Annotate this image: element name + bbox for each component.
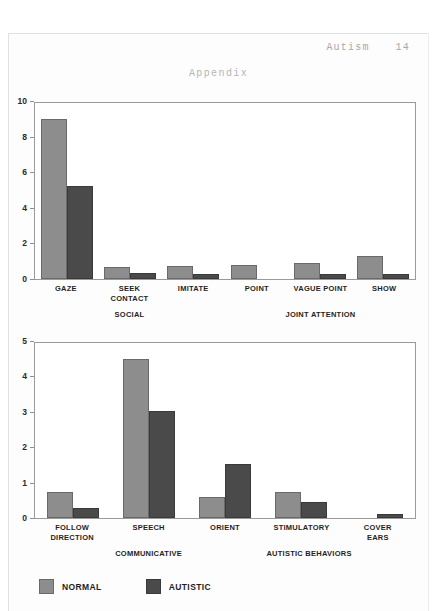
- y-axis-tick-label: 3: [22, 407, 27, 418]
- y-axis: 012345: [9, 342, 34, 519]
- y-axis-tick-label: 0: [22, 274, 27, 285]
- x-axis-group-label: COMMUNICATIVE: [115, 549, 182, 558]
- bar-group: [162, 103, 225, 279]
- y-axis-tick-label: 2: [22, 238, 27, 249]
- x-axis-category-label: GAZE: [34, 284, 98, 304]
- legend-swatch-normal: [39, 579, 54, 594]
- bar-autistic: [67, 186, 93, 279]
- y-axis-tick-mark: [30, 412, 34, 413]
- y-axis-tick-mark: [30, 279, 34, 280]
- bar-group: [35, 103, 98, 279]
- x-axis-group-label: SOCIAL: [115, 310, 145, 319]
- bar-normal: [41, 119, 67, 279]
- x-axis-category-labels: FOLLOWDIRECTIONSPEECHORIENTSTIMULATORYCO…: [34, 523, 416, 543]
- x-axis-category-label: SHOW: [352, 284, 416, 304]
- y-axis-tick-label: 10: [18, 96, 27, 107]
- y-axis-tick-mark: [30, 376, 34, 377]
- x-axis-category-label: SEEKCONTACT: [98, 284, 162, 304]
- y-axis-tick-mark: [30, 341, 34, 342]
- plot-frame: [34, 342, 416, 519]
- legend-label-normal: NORMAL: [62, 582, 102, 592]
- chart-communicative-autistic-behaviors: 012345 FOLLOWDIRECTIONSPEECHORIENTSTIMUL…: [9, 336, 430, 564]
- y-axis-tick-mark: [30, 518, 34, 519]
- x-axis-category-labels: GAZESEEKCONTACTIMITATEPOINTVAGUE POINTSH…: [34, 284, 416, 304]
- y-axis-tick-label: 1: [22, 478, 27, 489]
- y-axis-tick-label: 2: [22, 442, 27, 453]
- y-axis-tick-mark: [30, 172, 34, 173]
- bar-autistic: [73, 508, 99, 519]
- bar-group: [187, 343, 263, 518]
- x-axis-category-label: ORIENT: [187, 523, 263, 543]
- appendix-heading: Appendix: [9, 68, 428, 79]
- y-axis-tick-label: 4: [22, 371, 27, 382]
- page-number: 14: [396, 42, 410, 53]
- legend-item-autistic: AUTISTIC: [146, 579, 211, 594]
- y-axis-tick-label: 4: [22, 203, 27, 214]
- y-axis-tick-mark: [30, 208, 34, 209]
- legend-label-autistic: AUTISTIC: [169, 582, 211, 592]
- x-axis-group-label: JOINT ATTENTION: [286, 310, 356, 319]
- bar-autistic: [320, 274, 346, 279]
- y-axis-tick-mark: [30, 101, 34, 102]
- bar-normal: [167, 266, 193, 279]
- x-axis-category-label: STIMULATORY: [263, 523, 339, 543]
- chart-legend: NORMAL AUTISTIC: [39, 579, 211, 594]
- bar-groups: [35, 103, 415, 279]
- y-axis-tick-label: 0: [22, 513, 27, 524]
- document-page: Autism14 Appendix 0246810 GAZESEEKCONTAC…: [8, 33, 429, 611]
- x-axis-category-label: VAGUE POINT: [289, 284, 353, 304]
- bar-normal: [231, 265, 257, 279]
- bar-autistic: [149, 411, 175, 518]
- bar-normal: [199, 497, 225, 518]
- y-axis-tick-mark: [30, 137, 34, 138]
- plot-area-wrapper: 0246810: [34, 102, 416, 280]
- bar-group: [35, 343, 111, 518]
- x-axis-group-label: AUTISTIC BEHAVIORS: [266, 549, 351, 558]
- x-axis-category-label: FOLLOWDIRECTION: [34, 523, 110, 543]
- bar-group: [225, 103, 288, 279]
- chart-social-joint-attention: 0246810 GAZESEEKCONTACTIMITATEPOINTVAGUE…: [9, 96, 430, 321]
- y-axis-tick-label: 5: [22, 336, 27, 347]
- bar-group: [352, 103, 415, 279]
- running-head: Autism14: [326, 42, 410, 53]
- x-axis-category-label: SPEECH: [110, 523, 186, 543]
- bar-groups: [35, 343, 415, 518]
- y-axis-tick-mark: [30, 483, 34, 484]
- legend-swatch-autistic: [146, 579, 161, 594]
- bar-normal: [123, 359, 149, 518]
- y-axis-tick-label: 8: [22, 132, 27, 143]
- bar-group: [339, 343, 415, 518]
- bar-normal: [294, 263, 320, 279]
- bar-autistic: [383, 274, 409, 279]
- x-axis-category-label: IMITATE: [161, 284, 225, 304]
- running-head-title: Autism: [326, 42, 369, 53]
- bar-autistic: [301, 502, 327, 518]
- y-axis: 0246810: [9, 102, 34, 280]
- plot-area-wrapper: 012345: [34, 342, 416, 519]
- bar-autistic: [193, 274, 219, 279]
- bar-normal: [357, 256, 383, 279]
- bar-group: [98, 103, 161, 279]
- x-axis-category-label: COVEREARS: [340, 523, 416, 543]
- x-axis-category-label: POINT: [225, 284, 289, 304]
- y-axis-tick-mark: [30, 447, 34, 448]
- bar-autistic: [225, 464, 251, 518]
- bar-autistic: [130, 273, 156, 279]
- bar-group: [288, 103, 351, 279]
- plot-frame: [34, 102, 416, 280]
- y-axis-tick-label: 6: [22, 167, 27, 178]
- legend-item-normal: NORMAL: [39, 579, 102, 594]
- bar-group: [111, 343, 187, 518]
- y-axis-tick-mark: [30, 243, 34, 244]
- bar-group: [263, 343, 339, 518]
- bar-autistic: [377, 514, 403, 518]
- bar-normal: [275, 492, 301, 518]
- bar-normal: [47, 492, 73, 518]
- bar-normal: [104, 267, 130, 279]
